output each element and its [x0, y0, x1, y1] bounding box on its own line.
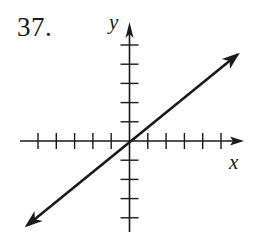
line-series	[27, 55, 237, 226]
coordinate-plane	[0, 0, 258, 232]
graph-figure: 37. y x	[0, 0, 258, 232]
axes	[20, 22, 244, 232]
